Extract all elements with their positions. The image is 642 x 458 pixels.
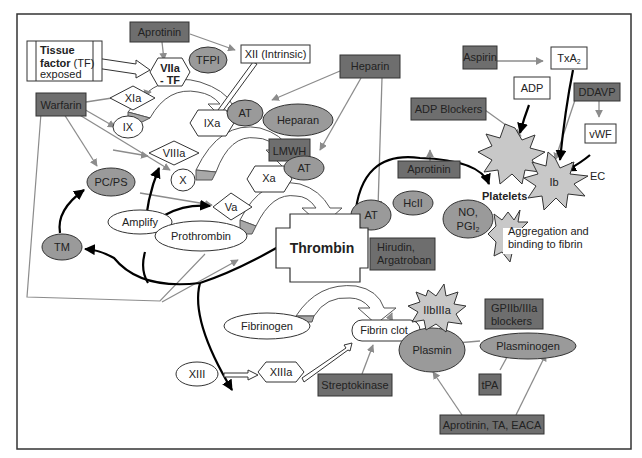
svg-text:Xa: Xa (262, 172, 276, 184)
svg-text:Heparan: Heparan (277, 114, 319, 126)
svg-text:Tissue: Tissue (40, 44, 75, 56)
at-oval-1: AT (227, 100, 263, 126)
svg-text:exposed: exposed (40, 68, 82, 80)
factor-xiii-oval: XIII (176, 362, 218, 386)
plasminogen-oval: Plasminogen (480, 333, 576, 359)
svg-text:Va: Va (225, 201, 239, 213)
svg-text:Argatroban: Argatroban (377, 254, 431, 266)
drug-box-aprotinin-mid: Aprotinin (398, 161, 460, 178)
txa2-box: TxA2 (551, 47, 587, 69)
drug-box-tpa: tPA (479, 374, 501, 395)
svg-text:Aggregation and: Aggregation and (508, 225, 589, 237)
svg-text:tPA: tPA (482, 379, 500, 391)
svg-text:Ib: Ib (549, 176, 558, 188)
svg-text:LMWH: LMWH (273, 145, 307, 157)
tm-oval: TM (42, 234, 82, 260)
svg-text:Amplify: Amplify (122, 216, 159, 228)
ec-label: EC (590, 170, 605, 182)
svg-text:binding to fibrin: binding to fibrin (508, 238, 583, 250)
svg-text:Aprotinin: Aprotinin (407, 163, 450, 175)
svg-text:IX: IX (123, 121, 134, 133)
svg-text:NO,: NO, (458, 206, 478, 218)
svg-text:AT: AT (297, 162, 311, 174)
svg-text:Prothrombin: Prothrombin (171, 230, 231, 242)
svg-text:Plasminogen: Plasminogen (496, 340, 560, 352)
drug-box-heparin: Heparin (340, 55, 400, 78)
drug-box-aprotinin-ta-eaca: Aprotinin, TA, EACA (440, 415, 544, 434)
drug-box-ddavp: DDAVP (574, 83, 620, 101)
svg-text:XIII: XIII (189, 368, 206, 380)
adp-box: ADP (514, 77, 550, 99)
svg-text:VIIIa: VIIIa (163, 147, 187, 159)
drug-box-streptokinase: Streptokinase (318, 374, 392, 396)
drug-box-aprotinin-top: Aprotinin (130, 22, 189, 42)
svg-text:Aprotinin, TA, EACA: Aprotinin, TA, EACA (443, 419, 542, 431)
svg-text:Fibrin clot: Fibrin clot (360, 324, 408, 336)
svg-text:TM: TM (54, 241, 70, 253)
factor-xiiia-hexagon: XIIIa (258, 362, 304, 382)
svg-text:X: X (179, 174, 187, 186)
svg-text:HcII: HcII (403, 197, 423, 209)
prothrombin-oval: Prothrombin (155, 221, 247, 251)
vwf-box: vWF (585, 124, 616, 143)
drug-box-warfarin: Warfarin (36, 93, 86, 116)
factor-x-circle: X (171, 169, 195, 191)
svg-text:DDAVP: DDAVP (578, 86, 615, 98)
svg-text:XIa: XIa (125, 92, 142, 104)
svg-text:Aprotinin: Aprotinin (138, 26, 181, 38)
svg-text:Thrombin: Thrombin (290, 240, 355, 256)
tfpi-oval: TFPI (189, 47, 227, 73)
svg-text:AT: AT (364, 209, 378, 221)
no-pgi2-oval: NO, PGI2 (443, 200, 493, 238)
svg-text:Hirudin,: Hirudin, (377, 241, 415, 253)
thrombin-node: Thrombin (276, 214, 368, 282)
svg-text:Warfarin: Warfarin (40, 99, 81, 111)
svg-text:TFPI: TFPI (196, 54, 220, 66)
coagulation-cascade-diagram: Aprotinin Warfarin Heparin LMWH Aprotini… (0, 0, 642, 458)
svg-text:Heparin: Heparin (351, 60, 390, 72)
svg-text:Fibrinogen: Fibrinogen (241, 320, 293, 332)
tissue-factor-box: Tissue factor (TF) exposed (27, 41, 102, 81)
svg-text:VIIa: VIIa (160, 62, 180, 74)
factor-ix-circle: IX (113, 116, 143, 138)
drug-box-hirudin-argatroban: Hirudin, Argatroban (370, 238, 435, 270)
svg-text:AT: AT (238, 107, 252, 119)
svg-text:blockers: blockers (491, 315, 532, 327)
svg-text:ADP: ADP (521, 82, 544, 94)
svg-text:GPIIb/IIIa: GPIIb/IIIa (491, 302, 538, 314)
svg-text:Plasmin: Plasmin (412, 344, 451, 356)
aggregation-label: Aggregation and binding to fibrin (503, 225, 589, 254)
svg-text:XII (Intrinsic): XII (Intrinsic) (245, 48, 307, 60)
at-oval-2: AT (284, 156, 324, 180)
platelets-label: Platelets (482, 190, 527, 202)
drug-box-aspirin: Aspirin (463, 46, 497, 69)
plasmin-oval: Plasmin (399, 328, 465, 372)
svg-text:ADP Blockers: ADP Blockers (415, 103, 483, 115)
svg-text:Streptokinase: Streptokinase (321, 379, 388, 391)
svg-text:IXa: IXa (204, 117, 221, 129)
svg-text:PC/PS: PC/PS (94, 176, 127, 188)
svg-text:XIIIa: XIIIa (270, 366, 294, 378)
svg-text:Aspirin: Aspirin (463, 51, 497, 63)
svg-text:IIbIIIa: IIbIIIa (423, 304, 451, 316)
pc-ps-oval: PC/PS (87, 168, 135, 196)
drug-box-adp-blockers: ADP Blockers (411, 98, 486, 120)
svg-text:vWF: vWF (589, 128, 612, 140)
svg-text:- TF: - TF (160, 74, 180, 86)
hcii-oval: HcII (393, 191, 433, 215)
heparan-oval: Heparan (263, 104, 333, 136)
drug-box-gpiib-iiia-blockers: GPIIb/IIIa blockers (485, 299, 543, 329)
factor-xii-box: XII (Intrinsic) (241, 45, 310, 63)
factor-viia-tf-hexagon: VIIa - TF (150, 58, 190, 86)
fibrinogen-oval: Fibrinogen (224, 313, 310, 339)
